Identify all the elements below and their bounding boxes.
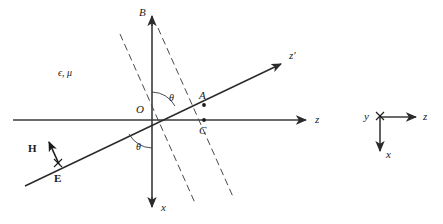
point-a-marker bbox=[202, 103, 206, 107]
angle-theta-lower-label: θ bbox=[136, 141, 141, 152]
z-prime-axis-line bbox=[25, 64, 281, 186]
inset-x-axis-label: x bbox=[385, 148, 391, 160]
point-c-label: C bbox=[199, 124, 207, 136]
z-prime-axis-label: z′ bbox=[288, 49, 296, 61]
wavefront-dashed-line-1 bbox=[120, 34, 195, 203]
point-a-label: A bbox=[198, 89, 206, 101]
x-axis-label: x bbox=[160, 201, 166, 213]
vector-h-label: H bbox=[28, 142, 37, 154]
angle-theta-upper-label: θ bbox=[169, 92, 174, 103]
figure-canvas: z B x z′ O ϵ, μ θ θ A C E H bbox=[0, 0, 443, 224]
point-c-marker bbox=[202, 118, 206, 122]
vector-e-label: E bbox=[54, 172, 61, 184]
physics-figure: z B x z′ O ϵ, μ θ θ A C E H bbox=[0, 0, 443, 224]
z-axis-label: z bbox=[314, 113, 320, 125]
vector-h-arrow bbox=[49, 142, 59, 164]
inset-y-axis-label: y bbox=[363, 110, 369, 122]
inset-z-axis-label: z bbox=[422, 110, 428, 122]
medium-parameters-label: ϵ, μ bbox=[58, 67, 72, 78]
origin-label: O bbox=[136, 103, 144, 115]
wavefront-dashed-line-2 bbox=[158, 28, 234, 199]
b-axis-label: B bbox=[139, 6, 146, 18]
